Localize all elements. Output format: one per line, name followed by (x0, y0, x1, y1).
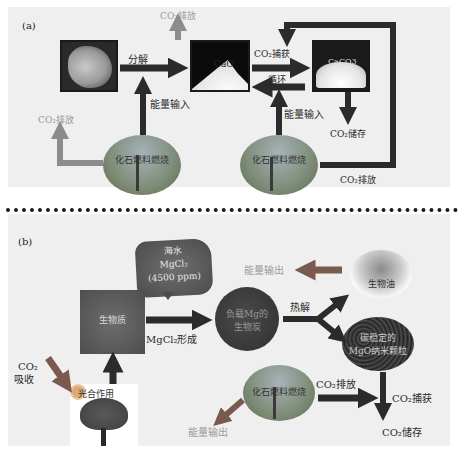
mgo-line2: MgO纳米颗粒 (342, 344, 414, 357)
cao-image: CaO (190, 40, 250, 92)
energy-output-bottom-label: 能量输出 (188, 428, 228, 438)
caco3-label: CaCO3 (328, 58, 357, 66)
seawater-line2: MgCl₂ (136, 258, 212, 271)
energy-output-top-label: 能量输出 (244, 266, 284, 276)
bubble-tail (162, 292, 174, 300)
mg-biochar-circle: 负载Mg的 生物炭 (215, 287, 279, 351)
mgcl2-formation-label: MgCl₂形成 (146, 335, 198, 345)
panel-b-label: (b) (18, 236, 32, 247)
co2-release-top-label: CO₂排放 (160, 12, 196, 21)
co2-capture-label: CO₂捕获 (254, 50, 290, 59)
panel-divider (6, 208, 458, 212)
co2-capture-b-label: CO₂捕获 (392, 394, 432, 404)
photosynthesis-image: 光合作用 (70, 384, 138, 446)
fossil-fuel-combustion-left: 化石燃料燃烧 (103, 135, 181, 195)
biomass-label: 生物质 (80, 316, 145, 325)
panel-a (8, 7, 450, 187)
tree-icon (80, 398, 128, 430)
seawater-line3: (4500 ppm) (136, 271, 212, 284)
mg-biochar-line1: 负载Mg的 (215, 307, 279, 320)
energy-input-left-label: 能量输入 (150, 100, 190, 110)
photosynthesis-label: 光合作用 (78, 390, 114, 399)
cao-label: CaO (214, 60, 234, 69)
co2-release-left-label: CO₂排放 (38, 116, 74, 125)
limestone-image (60, 40, 118, 92)
co2-storage-b-label: CO₂储存 (382, 428, 422, 438)
seawater-line1: 海水 (135, 245, 211, 258)
seawater-bubble: 海水 MgCl₂ (4500 ppm) (135, 238, 214, 298)
cycle-label: 循环 (268, 76, 286, 85)
co2-release-right-label: CO₂排放 (340, 176, 376, 185)
fossil-left-label: 化石燃料燃烧 (103, 153, 181, 166)
fossil-fuel-combustion-right: 化石燃料燃烧 (240, 135, 318, 195)
pyrolysis-label: 热解 (290, 303, 310, 313)
co2-absorb-line2: 吸收 (14, 375, 34, 385)
biomass-image: 生物质 (80, 290, 145, 354)
bio-oil-image: 生物油 (350, 250, 412, 298)
decompose-label: 分解 (128, 55, 148, 65)
co2-release-b-label: CO₂排放 (316, 380, 356, 390)
energy-input-right-label: 能量输入 (284, 110, 324, 120)
mg-biochar-line2: 生物炭 (215, 320, 279, 333)
co2-absorb-line1: CO₂ (18, 362, 38, 372)
tree-trunk (101, 428, 106, 446)
caco3-image: CaCO3 (312, 40, 370, 92)
fossil-b-label: 化石燃料燃烧 (243, 385, 315, 398)
co2-storage-label: CO₂储存 (330, 130, 366, 139)
fossil-right-label: 化石燃料燃烧 (240, 153, 318, 166)
panel-a-label: (a) (22, 20, 36, 31)
fossil-fuel-combustion-b: 化石燃料燃烧 (243, 365, 315, 421)
mgo-particles-circle: 碳稳定的 MgO纳米颗粒 (342, 317, 414, 371)
bio-oil-label: 生物油 (350, 277, 412, 290)
mgo-line1: 碳稳定的 (342, 331, 414, 344)
